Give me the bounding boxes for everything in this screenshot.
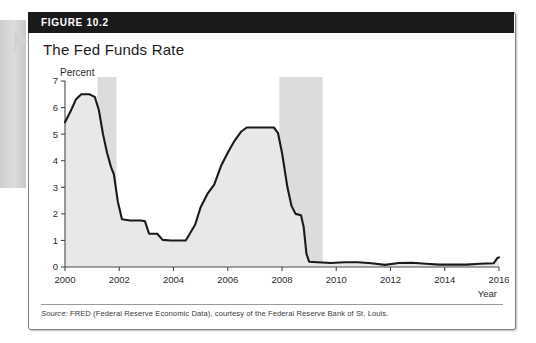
source-divider	[41, 304, 503, 305]
y-tick-label: 5	[53, 129, 58, 140]
source-text: FRED (Federal Reserve Economic Data), co…	[68, 309, 389, 318]
y-tick-label-group: 01234567	[53, 75, 65, 272]
y-tick-label: 3	[53, 182, 58, 193]
figure-number-label: FIGURE 10.2	[28, 17, 109, 28]
y-tick-label: 7	[53, 75, 58, 86]
x-tick-label: 2010	[326, 274, 347, 285]
x-tick-label: 2006	[217, 274, 238, 285]
figure-card: FIGURE 10.2 The Fed Funds Rate 01234567 …	[28, 12, 516, 330]
x-tick-label: 2016	[488, 274, 509, 285]
source-note: Source: FRED (Federal Reserve Economic D…	[41, 309, 388, 318]
y-tick-label: 0	[53, 261, 58, 272]
y-axis-label: Percent	[60, 67, 95, 78]
x-tick-label: 2004	[163, 274, 184, 285]
x-tick-label: 2000	[54, 274, 75, 285]
page-title: The Fed Funds Rate	[43, 41, 184, 58]
x-axis-label: Year	[478, 288, 497, 299]
y-tick-label: 4	[53, 155, 58, 166]
x-tick-label: 2014	[434, 274, 455, 285]
y-tick-label: 1	[53, 235, 58, 246]
x-tick-label: 2002	[109, 274, 130, 285]
x-tick-label: 2012	[380, 274, 401, 285]
x-tick-label: 2008	[271, 274, 292, 285]
fed-funds-rate-chart: 01234567 2000200220042006200820102012201…	[37, 63, 509, 307]
y-tick-label: 2	[53, 208, 58, 219]
chart-plot-area: 01234567 2000200220042006200820102012201…	[37, 63, 509, 307]
x-tick-label-group: 200020022004200620082010201220142016	[54, 267, 509, 285]
source-label: Source:	[41, 309, 68, 318]
figure-header-bar: FIGURE 10.2	[28, 12, 514, 33]
page-tab-notch-icon	[14, 30, 27, 52]
y-tick-label: 6	[53, 102, 58, 113]
